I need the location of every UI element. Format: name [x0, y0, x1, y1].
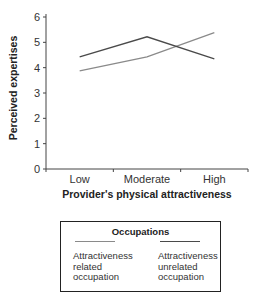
x-tick-label: Moderate — [124, 173, 170, 185]
y-tick-label: 3 — [34, 87, 40, 99]
legend-box: Occupations Attractiveness related occup… — [60, 221, 221, 292]
y-tick-label: 0 — [34, 163, 40, 175]
y-axis: 0123456 — [34, 11, 46, 175]
legend-line-unrelated — [160, 241, 200, 242]
legend-title: Occupations — [61, 226, 220, 237]
legend-entry-related: Attractiveness related occupation — [65, 238, 140, 283]
y-tick-label: 2 — [34, 112, 40, 124]
series-lines — [80, 33, 215, 71]
y-tick-label: 4 — [34, 62, 40, 74]
y-axis-title: Perceived expertises — [7, 36, 19, 141]
x-axis-title: Provider's physical attractiveness — [62, 188, 232, 200]
y-tick-label: 1 — [34, 138, 40, 150]
legend-label-unrelated: Attractiveness unrelated occupation — [158, 251, 225, 283]
x-axis: LowModerateHigh — [46, 169, 248, 185]
legend-label-related: Attractiveness related occupation — [73, 251, 140, 283]
legend-entry-unrelated: Attractiveness unrelated occupation — [150, 238, 225, 283]
y-tick-label: 5 — [34, 36, 40, 48]
y-tick-label: 6 — [34, 11, 40, 23]
x-tick-label: Low — [70, 173, 90, 185]
line-chart: 0123456 LowModerateHigh Perceived expert… — [0, 0, 267, 220]
legend-line-related — [75, 241, 115, 242]
x-tick-label: High — [203, 173, 226, 185]
